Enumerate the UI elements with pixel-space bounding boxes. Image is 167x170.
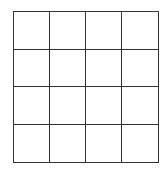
grid-cell [50, 87, 86, 125]
grid-cell [14, 50, 50, 88]
grid-cell [122, 12, 158, 50]
grid-cell [14, 125, 50, 163]
grid-cell [86, 50, 122, 88]
grid-cell [50, 12, 86, 50]
grid-cell [50, 50, 86, 88]
grid-cell [86, 87, 122, 125]
empty-4x4-grid [13, 11, 159, 163]
grid-cell [122, 87, 158, 125]
grid-cell [122, 50, 158, 88]
grid-cell [122, 125, 158, 163]
grid-cell [50, 125, 86, 163]
grid-cell [86, 125, 122, 163]
grid-cell [86, 12, 122, 50]
grid-cell [14, 87, 50, 125]
grid-cell [14, 12, 50, 50]
